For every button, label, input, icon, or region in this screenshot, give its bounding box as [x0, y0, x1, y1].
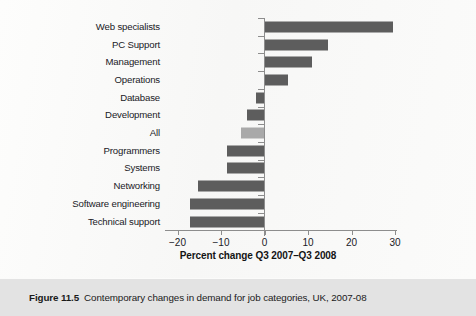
category-label: Systems	[38, 163, 160, 173]
category-label: Management	[38, 57, 160, 67]
bar	[265, 74, 289, 85]
figure-caption-band: Figure 11.5Contemporary changes in deman…	[0, 279, 476, 316]
category-label: Database	[38, 93, 160, 103]
figure-caption: Figure 11.5Contemporary changes in deman…	[0, 292, 367, 303]
category-label: Development	[38, 110, 160, 120]
bar	[247, 110, 264, 121]
x-axis-tick-label: 10	[302, 237, 313, 248]
category-label: Software engineering	[38, 199, 160, 209]
bar	[265, 57, 313, 68]
bar	[190, 216, 265, 227]
x-axis-tick-label: 30	[389, 237, 400, 248]
zero-reference-line	[264, 18, 265, 236]
chart-plot-area: Web specialistsPC SupportManagementOpera…	[0, 0, 476, 278]
category-label: All	[38, 128, 160, 138]
x-axis-tick	[178, 230, 179, 235]
bars-frame	[165, 18, 397, 230]
category-label: Programmers	[38, 146, 160, 156]
bar	[227, 163, 265, 174]
x-axis-tick	[352, 230, 353, 235]
bar	[190, 198, 265, 209]
x-axis-tick-label: 0	[262, 237, 268, 248]
x-axis-tick-label: −10	[213, 237, 230, 248]
bar	[227, 145, 265, 156]
x-axis-line	[165, 230, 397, 231]
category-label: PC Support	[38, 40, 160, 50]
category-label: Technical support	[38, 217, 160, 227]
bar	[265, 39, 328, 50]
x-axis-tick	[308, 230, 309, 235]
category-label: Web specialists	[38, 22, 160, 32]
figure-caption-label: Figure 11.5	[29, 292, 79, 303]
x-axis-tick	[265, 230, 266, 235]
category-label: Networking	[38, 181, 160, 191]
bar	[265, 21, 393, 32]
x-axis-tick	[395, 230, 396, 235]
x-axis-title: Percent change Q3 2007–Q3 2008	[0, 250, 476, 261]
x-axis-tick-label: 20	[346, 237, 357, 248]
x-axis-tick	[221, 230, 222, 235]
x-axis-tick-label: −20	[169, 237, 186, 248]
bar	[198, 181, 265, 192]
category-label: Operations	[38, 75, 160, 85]
figure-container: Web specialistsPC SupportManagementOpera…	[0, 0, 476, 316]
bar	[241, 128, 265, 139]
category-axis: Web specialistsPC SupportManagementOpera…	[38, 18, 160, 230]
figure-caption-text: Contemporary changes in demand for job c…	[84, 292, 366, 303]
